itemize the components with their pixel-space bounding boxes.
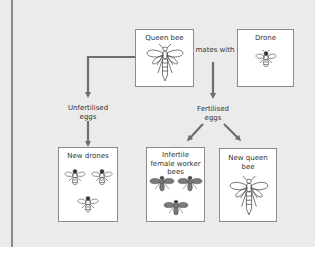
drone-bee-icon [91, 168, 113, 186]
worker-bee-icon [177, 174, 203, 192]
worker-bees-box: Infertile female worker bees [146, 147, 205, 222]
diagram-page: Queen bee mates with Drone [0, 0, 315, 247]
drone-box: Drone [237, 29, 294, 87]
arrow-fertilised-to-workers [189, 124, 203, 139]
arrow-queen-to-unfertilised [88, 57, 135, 95]
drone-bee-icon [64, 168, 86, 186]
new-drones-box: New drones [58, 147, 118, 222]
drone-bee-icon [255, 50, 277, 68]
arrow-fertilised-to-queen [224, 124, 239, 139]
new-drones-label: New drones [59, 152, 117, 161]
queen-bee-box: Queen bee [135, 29, 194, 87]
queen-bee-icon [229, 175, 269, 217]
drone-label: Drone [238, 34, 293, 43]
queen-bee-label: Queen bee [136, 34, 193, 43]
unfertilised-eggs-label: Unfertilised eggs [60, 104, 116, 121]
fertilised-eggs-label: Fertilised eggs [195, 105, 231, 122]
queen-bee-icon [146, 43, 184, 83]
mates-with-label: mates with [193, 46, 237, 55]
new-queen-label: New queen bee [220, 154, 276, 171]
worker-bees-label: Infertile female worker bees [147, 151, 204, 177]
new-queen-box: New queen bee [219, 148, 277, 222]
worker-bee-icon [149, 174, 175, 192]
drone-bee-icon [77, 195, 99, 213]
worker-bee-icon [163, 198, 189, 216]
